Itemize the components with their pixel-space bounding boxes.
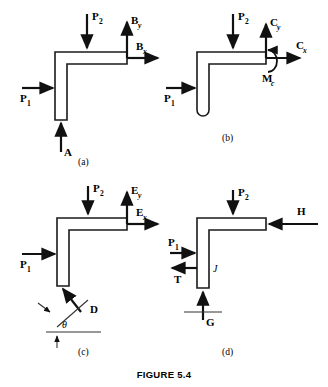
force-sub-p2-a: 2 (99, 17, 103, 26)
force-label-p1-c: P (20, 258, 27, 270)
panel-caption-d: (d) (222, 347, 233, 358)
force-label-t-d: T (174, 273, 182, 285)
force-sub-p1-c: 1 (27, 265, 31, 274)
force-label-p2-b: P (238, 10, 245, 22)
force-label-p2-d: P (238, 186, 245, 198)
figure-svg: P 2 P 1 B y B x A (a) P 2 P 1 C (0, 0, 328, 387)
bracket-body-c (57, 218, 127, 286)
bracket-body-a (55, 52, 127, 120)
force-label-d-c: D (90, 303, 98, 315)
figure-caption: FIGURE 5.4 (137, 369, 192, 380)
panel-b: P 2 P 1 C y C x M c (b) (164, 10, 307, 144)
force-sub-ex-c: x (142, 213, 147, 222)
force-label-g-d: G (206, 316, 215, 328)
panel-caption-c: (c) (78, 347, 89, 358)
panel-caption-b: (b) (222, 133, 233, 144)
force-sub-cy-b: y (276, 23, 281, 32)
member-label-j-d: J (213, 263, 218, 274)
force-label-p1-a: P (20, 92, 27, 104)
force-sub-p2-c: 2 (100, 189, 104, 198)
force-sub-cx-b: x (302, 46, 307, 55)
angle-tick-upper-c (38, 303, 50, 312)
bracket-body-b (197, 52, 266, 116)
force-sub-by-a: y (137, 21, 142, 30)
force-sub-p2-d: 2 (245, 193, 249, 202)
panel-a: P 2 P 1 B y B x A (a) (20, 10, 158, 168)
force-label-p2-c: P (93, 182, 100, 194)
panel-d: P 2 H P 1 T J G (d) (168, 186, 318, 358)
force-label-p2-a: P (92, 10, 99, 22)
force-sub-p1-b: 1 (171, 99, 175, 108)
panel-caption-a: (a) (78, 157, 89, 168)
force-sub-bx-a: x (142, 47, 147, 56)
panel-c: P 2 P 1 E y E x D θ (c) (20, 182, 158, 358)
force-sub-p2-b: 2 (245, 17, 249, 26)
force-sub-p1-d: 1 (175, 243, 179, 252)
force-sub-ey-c: y (137, 191, 142, 200)
force-sub-mc-b: c (271, 79, 275, 88)
force-label-p1-b: P (164, 92, 171, 104)
force-label-h-d: H (297, 205, 306, 217)
moment-arc-mc-b (268, 50, 277, 72)
force-label-p1-d: P (168, 236, 175, 248)
force-label-a-a: A (64, 146, 72, 158)
force-sub-p1-a: 1 (27, 99, 31, 108)
angle-label-theta-c: θ (62, 319, 67, 330)
bracket-body-d (197, 218, 266, 288)
figure-container: P 2 P 1 B y B x A (a) P 2 P 1 C (0, 0, 328, 387)
